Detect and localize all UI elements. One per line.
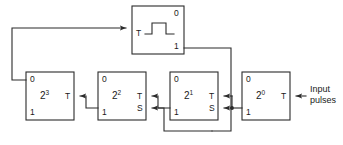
stage-4-output-0-label: 0 xyxy=(102,75,107,84)
stage-4-pin-s-label: S xyxy=(137,104,143,113)
stage-1-pin-t-label: T xyxy=(281,92,286,101)
stage-2-output-0-label: 0 xyxy=(174,75,179,84)
stage-2-weight-label: 21 xyxy=(184,91,193,101)
stage-2-pin-s-label: S xyxy=(209,104,215,113)
stage-8-output-1-label: 1 xyxy=(30,108,35,117)
input-pulses-line1: Input xyxy=(310,84,330,94)
pulse-source-output-0-label: 0 xyxy=(174,9,179,18)
stage-8-weight-label: 23 xyxy=(40,91,49,101)
stage-1-output-0-label: 0 xyxy=(246,75,251,84)
stage-8-pin-t-label: T xyxy=(65,92,70,101)
stage-1-weight-label: 20 xyxy=(256,91,265,101)
input-pulses-line2: pulses xyxy=(310,95,336,105)
stage-4-output-1-label: 1 xyxy=(102,108,107,117)
wire-stage2-out xyxy=(152,96,170,108)
input-pulses-annotation: Input pulses xyxy=(310,84,336,105)
pulse-source-output-1-label: 1 xyxy=(174,42,179,51)
stage-1-output-1-label: 1 xyxy=(246,108,251,117)
circuit-diagram-svg xyxy=(0,0,343,145)
pulse-source-pin-t-label: T xyxy=(136,29,141,38)
stage-2-pin-t-label: T xyxy=(209,92,214,101)
stage-8-output-0-label: 0 xyxy=(30,75,35,84)
stage-4-pin-t-label: T xyxy=(137,92,142,101)
pulse-waveform-icon xyxy=(145,23,174,34)
figure-canvas: 0 1 T 0 1 23 T 0 1 22 T S 0 1 21 T S 0 1… xyxy=(0,0,343,145)
stage-2-output-1-label: 1 xyxy=(174,108,179,117)
stage-4-weight-label: 22 xyxy=(112,91,121,101)
wire-stage4-out xyxy=(80,96,98,108)
